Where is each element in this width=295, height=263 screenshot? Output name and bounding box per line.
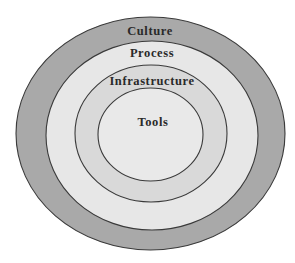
tools-label: Tools xyxy=(137,115,168,129)
culture-label: Culture xyxy=(127,24,173,38)
concentric-layers-diagram: Culture Process Infrastructure Tools xyxy=(0,0,295,263)
layer-tools xyxy=(98,88,203,181)
tools-core xyxy=(98,88,203,181)
process-label: Process xyxy=(130,46,174,60)
infrastructure-label: Infrastructure xyxy=(109,74,194,88)
